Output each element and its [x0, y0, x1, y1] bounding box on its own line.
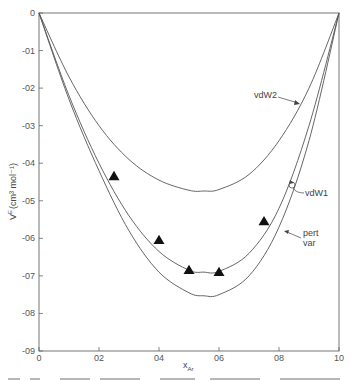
annotation-vdw1: vdW1: [289, 180, 328, 198]
y-tick-label: -05: [22, 196, 35, 206]
ylabel-sup: E: [7, 210, 13, 214]
x-tick-label: 10: [334, 353, 344, 363]
y-tick-label: -03: [22, 121, 35, 131]
annotation-pert-var: pert var: [284, 228, 319, 248]
triangle-marker-icon: [184, 265, 195, 274]
x-tick-label: 04: [154, 353, 164, 363]
y-tick-label: -08: [22, 308, 35, 318]
curve-vdw2: [39, 13, 339, 191]
leader-vdw1: [293, 188, 304, 193]
y-tick-label: -02: [22, 83, 35, 93]
x-tick-label: 02: [94, 353, 104, 363]
x-axis-label: xAr: [183, 360, 194, 372]
curve-vdw1: [39, 13, 339, 273]
svg-text:VE(cm³ mol⁻¹): VE(cm³ mol⁻¹): [7, 163, 18, 220]
caption-fragment: [8, 378, 340, 380]
xlabel-sub: Ar: [188, 366, 194, 372]
y-axis-label: VE(cm³ mol⁻¹): [7, 163, 18, 220]
x-tick-label: 0: [36, 353, 41, 363]
triangle-marker-icon: [154, 235, 165, 244]
y-tick-label: -04: [22, 158, 35, 168]
triangle-marker-icon: [259, 216, 270, 225]
x-tick-label: 06: [214, 353, 224, 363]
svg-text:xAr: xAr: [183, 360, 194, 372]
y-tick-label: -01: [22, 46, 35, 56]
annotation-vdw2: vdW2: [254, 90, 300, 105]
curves: [39, 13, 339, 297]
chart: 0-01-02-03-04-05-06-07-08-09 00204060810…: [0, 0, 350, 381]
label-vdw2: vdW2: [254, 90, 277, 100]
axes: [39, 13, 339, 351]
arrowhead-icon: [294, 100, 300, 105]
x-axis-ticks: 00204060810: [36, 347, 344, 363]
triangle-marker-icon: [214, 267, 225, 276]
data-markers: [109, 171, 270, 276]
arrow-pert-var: [287, 232, 301, 238]
label-pert: pert: [303, 228, 319, 238]
y-tick-label: -07: [22, 271, 35, 281]
plot-frame: [39, 13, 339, 351]
label-var: var: [303, 238, 316, 248]
label-vdw1: vdW1: [305, 188, 328, 198]
arrowhead-icon: [284, 230, 289, 234]
y-tick-label: 0: [30, 8, 35, 18]
y-axis-ticks: 0-01-02-03-04-05-06-07-08-09: [22, 8, 43, 356]
curve-pert-var: [39, 13, 339, 297]
y-tick-label: -06: [22, 233, 35, 243]
ylabel-unit: (cm³ mol⁻¹): [8, 163, 18, 209]
y-tick-label: -09: [22, 346, 35, 356]
x-tick-label: 08: [274, 353, 284, 363]
triangle-marker-icon: [109, 171, 120, 180]
